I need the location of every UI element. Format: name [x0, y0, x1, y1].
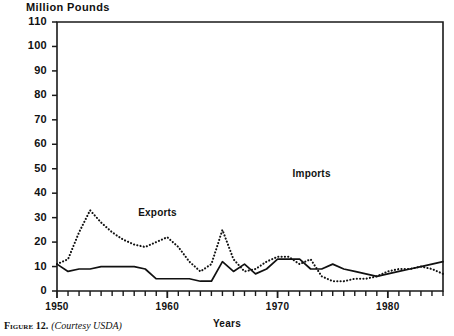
- y-tick-label: 10: [13, 260, 47, 272]
- y-tick-label: 50: [13, 162, 47, 174]
- y-tick-label: 60: [13, 137, 47, 149]
- y-tick-label: 40: [13, 186, 47, 198]
- x-tick-label: 1950: [37, 301, 77, 312]
- chart-plot-area: [0, 0, 454, 336]
- caption-prefix: Figure: [4, 320, 33, 331]
- caption-source: (Courtesy USDA): [51, 320, 122, 331]
- y-tick-label: 70: [13, 113, 47, 125]
- ticks-group: [52, 22, 443, 298]
- annotation-imports: Imports: [293, 168, 331, 179]
- figure-caption: Figure 12. (Courtesy USDA): [4, 320, 122, 331]
- x-tick-label: 1970: [258, 301, 298, 312]
- y-tick-label: 20: [13, 235, 47, 247]
- series-line-imports: [57, 259, 443, 281]
- axes-group: [57, 22, 443, 291]
- caption-number: 12.: [36, 320, 49, 331]
- x-tick-label: 1960: [147, 301, 187, 312]
- y-tick-label: 0: [13, 284, 47, 296]
- y-tick-label: 80: [13, 88, 47, 100]
- y-tick-label: 90: [13, 64, 47, 76]
- series-group: [57, 210, 443, 281]
- series-line-exports: [57, 210, 443, 281]
- figure-container: Million Pounds 0102030405060708090100110…: [0, 0, 454, 336]
- y-tick-label: 100: [13, 39, 47, 51]
- x-tick-label: 1980: [368, 301, 408, 312]
- y-tick-label: 110: [13, 15, 47, 27]
- annotation-exports: Exports: [138, 207, 177, 218]
- y-tick-label: 30: [13, 211, 47, 223]
